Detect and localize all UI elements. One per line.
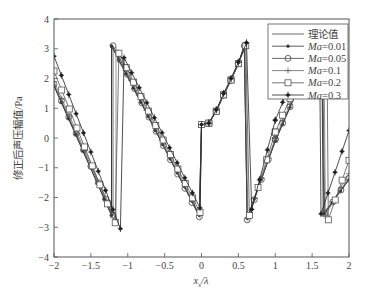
y-tick-label: −1 [38,162,49,173]
x-tick-label: 2 [347,260,352,271]
x-tick-label: 1 [273,260,278,271]
x-axis: −2−1.5−1−0.500.511.52 [49,253,352,271]
y-axis-title: 修正后声压幅值/Pa [12,96,24,180]
y-tick-label: −4 [38,252,49,263]
x-tick-label: 1.5 [306,260,319,271]
legend-label: Ma=0.2 [307,77,341,88]
y-tick-label: 2 [44,73,49,84]
x-tick-label: −1.5 [82,260,100,271]
y-tick-label: 0 [44,133,49,144]
y-tick-label: 1 [44,103,49,114]
chart: −2−1.5−1−0.500.511.52 −4−3−2−101234 xs/λ… [0,0,370,302]
legend-label: Ma=0.01 [307,41,346,52]
legend-label: 理论值 [308,28,339,40]
legend: 理论值Ma=0.01Ma=0.05Ma=0.1Ma=0.2Ma=0.3 [268,24,348,101]
legend-label: Ma=0.1 [307,65,341,76]
y-tick-label: −2 [38,192,49,203]
y-axis: −4−3−2−101234 [38,14,58,263]
x-tick-label: −2 [49,260,60,271]
x-tick-label: −1 [122,260,133,271]
y-tick-label: 3 [44,43,49,54]
legend-label: Ma=0.3 [307,90,341,101]
legend-label: Ma=0.05 [307,53,346,64]
x-axis-title: xs/λ [193,275,209,289]
y-tick-label: 4 [44,14,49,25]
x-tick-label: −0.5 [156,260,174,271]
y-tick-label: −3 [38,222,49,233]
x-tick-label: 0 [199,260,204,271]
x-tick-label: 0.5 [232,260,245,271]
